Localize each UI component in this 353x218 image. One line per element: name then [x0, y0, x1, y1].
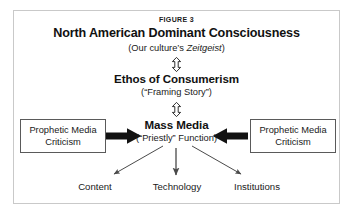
- node-ethos-subtitle: (“Framing Story”): [0, 88, 353, 98]
- node-consciousness-subtitle: (Our culture’s Zeitgeist): [0, 44, 353, 54]
- output-label-institutions: Institutions: [217, 182, 297, 192]
- double-arrow-vertical-icon: [171, 102, 182, 117]
- consciousness-subtitle-italic: Zeitgeist: [186, 43, 221, 53]
- consciousness-subtitle-suffix: ): [222, 43, 225, 53]
- node-mass-media-subtitle: (“Priestly” Function): [0, 134, 353, 144]
- output-label-technology: Technology: [139, 182, 215, 192]
- node-mass-media-title: Mass Media: [0, 119, 353, 131]
- output-label-content: Content: [62, 182, 128, 192]
- node-consciousness-title: North American Dominant Consciousness: [0, 27, 353, 40]
- figure-diagram: FIGURE 3 North American Dominant Conscio…: [0, 0, 353, 218]
- node-ethos-title: Ethos of Consumerism: [0, 73, 353, 85]
- consciousness-subtitle-prefix: (Our culture’s: [128, 43, 186, 53]
- figure-number-label: FIGURE 3: [0, 16, 353, 23]
- double-arrow-vertical-icon: [171, 57, 182, 72]
